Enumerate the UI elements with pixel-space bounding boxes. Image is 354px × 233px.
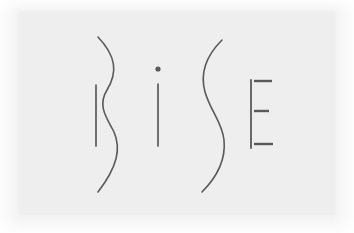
glyph-i [155, 66, 160, 146]
image-canvas: BiSE [0, 0, 354, 233]
glyph-e [251, 80, 273, 148]
glyph-b-bowl-curve [98, 37, 117, 192]
glyph-s-curve [202, 40, 224, 192]
glyph-i-dot [155, 66, 160, 71]
glyph-b [96, 37, 117, 192]
bise-wordmark [0, 0, 354, 233]
glyph-s [202, 40, 224, 192]
